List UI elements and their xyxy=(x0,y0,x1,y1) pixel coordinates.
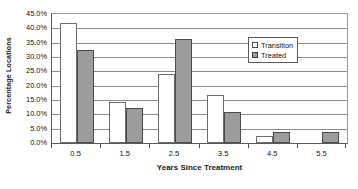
bar-treated-5.5 xyxy=(322,132,339,143)
x-axis-tick-label: 2.5 xyxy=(169,149,180,158)
x-axis-tick-mark xyxy=(199,144,200,148)
x-axis-tick-mark xyxy=(149,144,150,148)
gridline xyxy=(52,100,347,101)
x-axis-tick-label: 4.5 xyxy=(267,149,278,158)
x-axis-tick-labels: 0.51.52.53.54.55.5 xyxy=(51,149,348,161)
legend-entry-treated: Treated xyxy=(252,50,293,60)
legend-swatch-icon xyxy=(252,52,258,58)
y-axis-tick-label: 25.0% xyxy=(26,66,47,75)
x-axis-tick-label: 5.5 xyxy=(316,149,327,158)
y-axis-title-text: Percentage Locations xyxy=(4,37,13,114)
y-axis-tick-label: 15.0% xyxy=(26,95,47,104)
y-axis-tick-label: 20.0% xyxy=(26,80,47,89)
plot-area xyxy=(51,13,348,144)
bar-transition-2.5 xyxy=(158,74,175,143)
gridline xyxy=(52,43,347,44)
x-axis-tick-mark xyxy=(100,144,101,148)
x-axis-tick-mark xyxy=(51,144,52,148)
bar-treated-1.5 xyxy=(126,108,143,143)
legend-swatch-icon xyxy=(252,42,258,48)
y-axis-tick-label: 35.0% xyxy=(26,37,47,46)
gridline xyxy=(52,71,347,72)
x-axis-tick-label: 0.5 xyxy=(70,149,81,158)
y-axis-tick-label: 0.0% xyxy=(30,138,47,147)
x-axis-title: Years Since Treatment xyxy=(51,163,348,172)
bar-transition-1.5 xyxy=(109,102,126,143)
legend-label: Transition xyxy=(261,41,293,50)
bar-transition-3.5 xyxy=(207,95,224,143)
bar-treated-2.5 xyxy=(175,39,192,143)
gridline xyxy=(52,86,347,87)
bar-transition-0.5 xyxy=(60,23,77,143)
gridline xyxy=(52,57,347,58)
x-axis-tick-mark xyxy=(345,144,346,148)
chart-legend: TransitionTreated xyxy=(248,37,298,63)
bar-treated-4.5 xyxy=(273,132,290,143)
x-axis-tick-label: 3.5 xyxy=(218,149,229,158)
y-axis-tick-label: 40.0% xyxy=(26,23,47,32)
gridline xyxy=(52,28,347,29)
x-axis-tick-mark xyxy=(248,144,249,148)
legend-entry-transition: Transition xyxy=(252,40,293,50)
y-axis-tick-label: 10.0% xyxy=(26,109,47,118)
y-axis-tick-labels: 0.0%5.0%10.0%15.0%20.0%25.0%30.0%35.0%40… xyxy=(14,13,47,144)
gridline xyxy=(52,114,347,115)
x-axis-tick-mark xyxy=(297,144,298,148)
bar-transition-4.5 xyxy=(256,136,273,143)
bar-treated-0.5 xyxy=(77,50,94,143)
x-axis-tick-marks xyxy=(51,144,348,148)
bar-treated-3.5 xyxy=(224,112,241,143)
bar-chart: Percentage Locations 0.0%5.0%10.0%15.0%2… xyxy=(0,0,358,189)
legend-label: Treated xyxy=(261,51,286,60)
y-axis-tick-label: 45.0% xyxy=(26,9,47,18)
y-axis-tick-label: 30.0% xyxy=(26,52,47,61)
y-axis-tick-label: 5.0% xyxy=(30,123,47,132)
x-axis-tick-label: 1.5 xyxy=(119,149,130,158)
gridline xyxy=(52,129,347,130)
